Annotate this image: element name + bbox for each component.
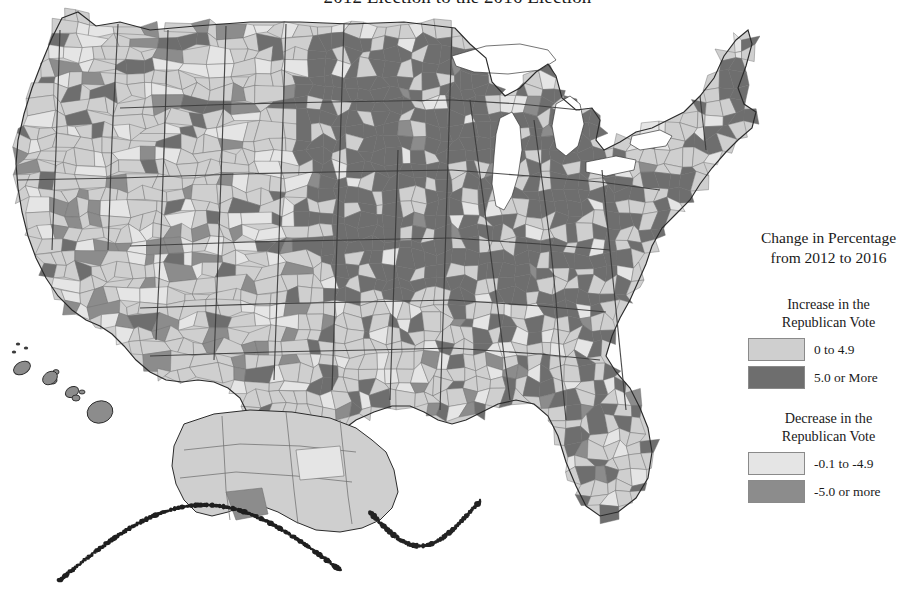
map-svg — [0, 0, 760, 592]
legend-swatch-increase-small — [748, 338, 805, 361]
legend-swatch-decrease-small — [748, 452, 805, 475]
legend-group-decrease-heading-line-1: Decrease in the — [742, 409, 915, 427]
legend-swatch-decrease-large — [748, 480, 805, 503]
legend-entry-increase-small: 0 to 4.9 — [748, 338, 915, 361]
map-figure-container: 2012 Election to the 2016 Election Chang… — [0, 0, 915, 592]
legend-label-decrease-small: -0.1 to -4.9 — [814, 457, 874, 470]
legend-group-decrease-heading: Decrease in the Republican Vote — [742, 409, 915, 446]
legend-label-decrease-large: -5.0 or more — [814, 485, 881, 498]
legend-title-line-2: from 2012 to 2016 — [742, 248, 915, 268]
legend-entry-decrease-large: -5.0 or more — [748, 480, 915, 503]
counties-layer — [13, 8, 760, 524]
legend-group-decrease: Decrease in the Republican Vote -0.1 to … — [742, 409, 915, 503]
legend-group-increase-heading: Increase in the Republican Vote — [742, 295, 915, 332]
legend-title-line-1: Change in Percentage — [742, 228, 915, 248]
legend-group-decrease-heading-line-2: Republican Vote — [742, 427, 915, 445]
legend-label-increase-large: 5.0 or More — [814, 371, 878, 384]
legend-group-increase-heading-line-2: Republican Vote — [742, 313, 915, 331]
legend-label-increase-small: 0 to 4.9 — [814, 343, 855, 356]
legend-entry-decrease-small: -0.1 to -4.9 — [748, 452, 915, 475]
us-county-choropleth-map — [0, 0, 760, 592]
legend-entry-increase-large: 5.0 or More — [748, 366, 915, 389]
map-legend: Change in Percentage from 2012 to 2016 I… — [742, 228, 915, 523]
legend-title: Change in Percentage from 2012 to 2016 — [742, 228, 915, 269]
legend-swatch-increase-large — [748, 366, 805, 389]
legend-group-increase-heading-line-1: Increase in the — [742, 295, 915, 313]
legend-group-increase: Increase in the Republican Vote 0 to 4.9… — [742, 295, 915, 389]
